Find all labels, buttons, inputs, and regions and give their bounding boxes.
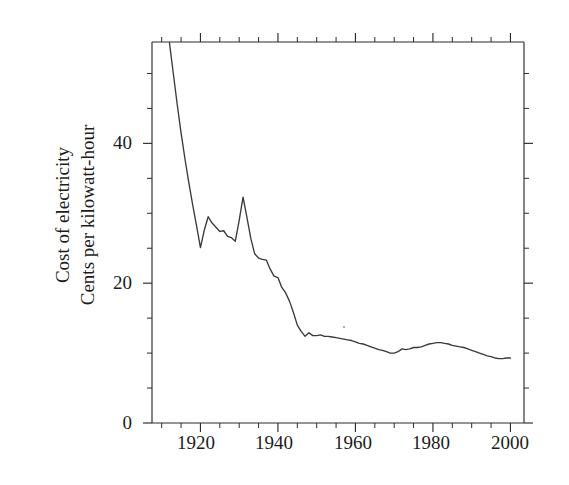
y-tick-label-0: 0 (96, 412, 132, 434)
y-axis-title: Cost of electricity Cents per kilowatt-h… (0, 0, 150, 430)
y-axis-title-line-1: Cost of electricity (50, 125, 75, 305)
axis-frame (152, 42, 524, 423)
x-tick-label-2000: 2000 (480, 432, 540, 454)
x-tick-label-1980: 1980 (401, 432, 461, 454)
axis-ticks (143, 33, 533, 432)
scan-speck (343, 326, 345, 328)
y-tick-label-20: 20 (96, 272, 132, 294)
y-tick-label-40: 40 (96, 132, 132, 154)
x-tick-label-1940: 1940 (244, 432, 304, 454)
x-tick-label-1920: 1920 (166, 432, 226, 454)
x-tick-label-1960: 1960 (323, 432, 383, 454)
data-series-group (169, 43, 510, 359)
data-line-cost-of-electricity (169, 43, 510, 359)
chart-figure: Cost of electricity Cents per kilowatt-h… (0, 0, 569, 485)
